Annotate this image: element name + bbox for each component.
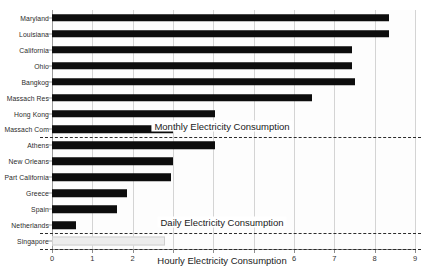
category-label: Spain [31,206,49,213]
category-label: Athens [27,142,49,149]
category-label: New Orleans [9,158,49,165]
category-label: Greece [26,190,49,197]
table-row: California [0,42,425,58]
bar [52,14,389,22]
group-annotation-label: Monthly Electricity Consumption [151,121,292,132]
bar [52,189,127,197]
x-tick-label: 8 [373,254,377,263]
bar [52,30,389,38]
bar [52,158,173,166]
table-row: Athens [0,137,425,153]
category-label: Bangkog [21,78,49,85]
bar [52,78,355,86]
x-tick-label: 2 [131,254,135,263]
x-tick-label: 7 [332,254,336,263]
table-row: Spain [0,201,425,217]
bar [52,142,215,150]
table-row: Singapore [0,233,425,249]
group-separator [40,233,421,234]
bar [52,174,171,182]
category-label: Netherlands [11,222,49,229]
category-label: Ohio [34,62,49,69]
bar [52,110,215,118]
table-row: Hong Kong [0,106,425,122]
group-annotation-label: Daily Electricity Consumption [157,217,286,228]
group-separator [40,137,421,138]
table-row: Massach Res [0,90,425,106]
x-tick-label: 9 [413,254,417,263]
category-label: Maryland [20,14,49,21]
group-annotation-label: Hourly Electricity Consumption [154,255,289,266]
bar [52,205,117,213]
x-tick-label: 0 [50,254,54,263]
table-row: Ohio [0,58,425,74]
table-row: Greece [0,185,425,201]
electricity-consumption-bar-chart: 0123456789 MarylandLouisianaCaliforniaOh… [0,0,425,272]
category-label: Singapore [17,238,49,245]
bar [52,221,76,229]
category-label: Hong Kong [14,110,49,117]
table-row: Maryland [0,10,425,26]
category-label: Massach Res [7,94,49,101]
table-row: Louisiana [0,26,425,42]
bar [52,237,165,246]
bar [52,62,352,70]
x-tick-label: 6 [292,254,296,263]
category-label: California [19,46,49,53]
table-row: New Orleans [0,153,425,169]
category-label: Massach Com [4,126,49,133]
table-row: Bangkog [0,74,425,90]
x-tick-label: 1 [90,254,94,263]
category-label: Louisiana [19,30,49,37]
category-label: Part California [4,174,49,181]
bar [52,94,312,102]
bar [52,46,352,54]
group-separator [40,249,421,250]
table-row: Part California [0,169,425,185]
